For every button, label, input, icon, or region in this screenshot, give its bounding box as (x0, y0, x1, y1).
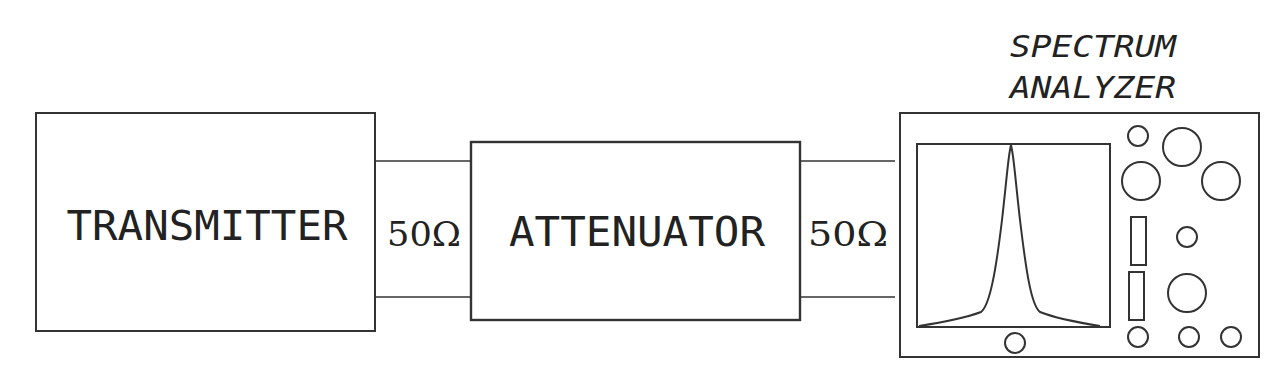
impedance-label-2: 50Ω (808, 214, 888, 254)
knob-icon (1168, 274, 1206, 312)
block-diagram: TRANSMITTER 50Ω ATTENUATOR 50Ω SPECTRUM … (0, 0, 1284, 370)
knob-icon (1179, 327, 1199, 347)
slot-icon (1131, 217, 1146, 265)
knob-icon (1128, 126, 1148, 146)
knob-icon (1163, 128, 1201, 166)
knob-icon (1005, 333, 1025, 353)
spectrum-trace (919, 145, 1100, 326)
knob-icon (1122, 162, 1160, 200)
analyzer-screen (917, 144, 1110, 327)
knob-icon (1128, 327, 1148, 347)
attenuator-label: ATTENUATOR (509, 209, 766, 255)
knob-icon (1202, 162, 1240, 200)
impedance-label-1: 50Ω (387, 214, 461, 254)
knob-icon (1221, 327, 1241, 347)
knob-icon (1177, 227, 1197, 247)
slot-icon (1129, 272, 1144, 320)
spectrum-analyzer-label-line1: SPECTRUM (1010, 29, 1177, 64)
spectrum-analyzer-label-line2: ANALYZER (1008, 70, 1176, 105)
transmitter-label: TRANSMITTER (67, 203, 349, 249)
